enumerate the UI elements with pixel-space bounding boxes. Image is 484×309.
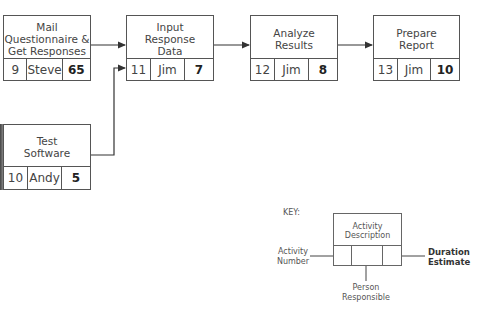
activity-description: Input Response Data — [127, 16, 213, 61]
activity-number: 11 — [127, 59, 150, 80]
duration-estimate: 65 — [62, 59, 90, 80]
key-cell-duration — [382, 246, 401, 265]
duration-estimate: 5 — [61, 167, 90, 189]
activity-description: Test Software — [4, 125, 90, 169]
key-label-person-responsible: Person Responsible — [336, 283, 396, 302]
key-label-duration-estimate: Duration Estimate — [428, 247, 484, 267]
key-node: Activity Description — [333, 213, 402, 266]
arrow-test-to-input — [90, 68, 125, 155]
person-responsible: Steve — [26, 59, 61, 80]
activity-node-mail[interactable]: Mail Questionnaire & Get Responses 9 Ste… — [3, 15, 91, 81]
activity-node-analyze[interactable]: Analyze Results 12 Jim 8 — [250, 15, 338, 81]
key-cell-number — [334, 246, 351, 265]
activity-node-test[interactable]: Test Software 10 Andy 5 — [3, 124, 91, 190]
key-label-activity-number: Activity Number — [276, 247, 310, 266]
person-responsible: Andy — [27, 167, 61, 189]
activity-number: 13 — [374, 59, 397, 80]
person-responsible: Jim — [150, 59, 184, 80]
activity-node-prepare[interactable]: Prepare Report 13 Jim 10 — [373, 15, 460, 81]
activity-number: 9 — [4, 59, 26, 80]
duration-estimate: 7 — [184, 59, 213, 80]
key-title: KEY: — [283, 208, 300, 217]
duration-estimate: 10 — [430, 59, 459, 80]
activity-description: Analyze Results — [251, 16, 337, 61]
key-activity-description: Activity Description — [334, 214, 401, 248]
person-responsible: Jim — [397, 59, 430, 80]
duration-estimate: 8 — [308, 59, 337, 80]
activity-description: Prepare Report — [374, 16, 459, 61]
activity-number: 10 — [4, 167, 27, 189]
key-cell-person — [351, 246, 382, 265]
activity-node-input[interactable]: Input Response Data 11 Jim 7 — [126, 15, 214, 81]
activity-description: Mail Questionnaire & Get Responses — [4, 16, 90, 61]
activity-number: 12 — [251, 59, 274, 80]
person-responsible: Jim — [274, 59, 308, 80]
